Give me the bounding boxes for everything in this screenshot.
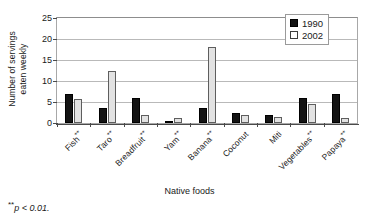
- x-axis-tick-mark: [57, 123, 58, 127]
- category-name: Papaya: [320, 134, 348, 162]
- x-axis-tick-mark: [190, 123, 191, 127]
- y-axis-tick-mark: [53, 81, 57, 82]
- x-axis-category-label-coconut: Coconut: [221, 129, 251, 159]
- bar-papaya-2002: [341, 118, 349, 123]
- x-axis-tick-mark: [157, 123, 158, 127]
- x-axis-line: [56, 124, 359, 125]
- y-axis-tick-mark: [53, 60, 57, 61]
- x-axis-category-label-papaya: Papaya**: [319, 129, 352, 162]
- x-axis-category-label-fish: Fish**: [61, 129, 85, 153]
- bar-miti-1990: [265, 115, 273, 123]
- bar-papaya-1990: [332, 94, 340, 123]
- x-axis-category-label-breadfruit: Breadfruit**: [112, 129, 151, 168]
- bar-yam-1990: [165, 121, 173, 123]
- bar-banana-1990: [199, 108, 207, 123]
- bar-vegetables-2002: [308, 104, 316, 123]
- chart-footnote: **p < 0.01.: [8, 200, 50, 213]
- legend-label-2002: 2002: [302, 30, 323, 41]
- category-name: Breadfruit: [113, 134, 147, 168]
- y-axis-tick-mark: [53, 18, 57, 19]
- bar-fish-1990: [65, 94, 73, 123]
- bar-fish-2002: [74, 99, 82, 123]
- y-axis-tick-mark: [53, 39, 57, 40]
- legend-label-1990: 1990: [302, 18, 323, 29]
- bar-yam-2002: [174, 118, 182, 123]
- x-axis-tick-mark: [257, 123, 258, 127]
- x-axis-title: Native foods: [0, 186, 379, 196]
- bar-miti-2002: [274, 117, 282, 123]
- y-axis-tick-mark: [53, 102, 57, 103]
- x-axis-category-label-miti: Miti: [267, 129, 284, 146]
- bar-breadfruit-2002: [141, 115, 149, 123]
- bar-taro-1990: [99, 108, 107, 123]
- legend-item-1990: 1990: [290, 17, 323, 29]
- legend-swatch-2002-icon: [290, 31, 298, 39]
- x-axis-tick-mark: [90, 123, 91, 127]
- category-name: Banana: [186, 134, 214, 162]
- y-axis-title: Number of servings eaten weekly: [7, 4, 29, 134]
- x-axis-category-label-yam: Yam**: [160, 129, 184, 153]
- bar-taro-2002: [108, 71, 116, 124]
- x-axis-tick-mark: [324, 123, 325, 127]
- x-axis-category-label-taro: Taro**: [94, 129, 118, 153]
- bar-banana-2002: [208, 47, 216, 123]
- bar-breadfruit-1990: [132, 98, 140, 123]
- category-name: Coconut: [221, 129, 251, 159]
- legend-swatch-1990-icon: [290, 19, 298, 27]
- chart-figure: Number of servings eaten weekly 05101520…: [0, 0, 379, 220]
- legend-item-2002: 2002: [290, 29, 323, 41]
- x-axis-category-label-banana: Banana**: [184, 129, 218, 163]
- category-name: Miti: [267, 129, 284, 146]
- chart-legend: 1990 2002: [285, 14, 329, 45]
- category-name: Vegetables: [277, 134, 315, 172]
- x-axis-tick-mark: [290, 123, 291, 127]
- x-axis-tick-mark: [224, 123, 225, 127]
- bar-coconut-2002: [241, 115, 249, 123]
- x-axis-tick-mark: [124, 123, 125, 127]
- bar-vegetables-1990: [299, 98, 307, 123]
- footnote-text: p < 0.01.: [14, 203, 49, 213]
- bar-coconut-1990: [232, 113, 240, 124]
